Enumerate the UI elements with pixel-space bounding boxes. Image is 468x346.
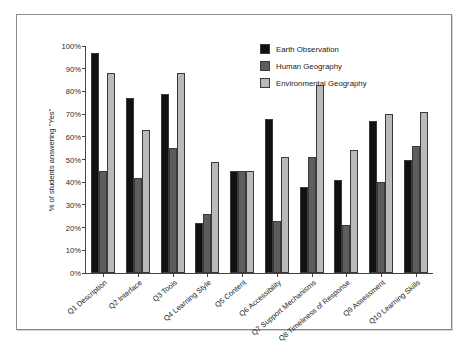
y-axis-tick-label: 50% bbox=[66, 155, 81, 164]
y-axis-tick-mark bbox=[82, 273, 85, 274]
bar-group-bars bbox=[404, 46, 428, 273]
bar-environmental-geography bbox=[246, 171, 254, 273]
y-axis-tick-label: 80% bbox=[66, 87, 81, 96]
y-axis-tick-mark bbox=[82, 250, 85, 251]
x-axis-tick-mark bbox=[138, 273, 139, 277]
bar-human-geography bbox=[134, 178, 142, 273]
y-axis-tick-mark bbox=[82, 182, 85, 183]
bar-human-geography bbox=[238, 171, 246, 273]
x-axis-tick-mark bbox=[103, 273, 104, 277]
y-axis-title: % of students answering "Yes" bbox=[47, 46, 59, 274]
x-axis-tick-label: Q1 Description bbox=[66, 278, 109, 316]
y-axis-tick-label: 70% bbox=[66, 110, 81, 119]
y-axis-tick-mark bbox=[82, 114, 85, 115]
bar-group-bars bbox=[300, 46, 324, 273]
bar-environmental-geography bbox=[281, 157, 289, 273]
x-axis-tick-mark bbox=[312, 273, 313, 277]
y-axis-tick-mark bbox=[82, 136, 85, 137]
bar-earth-observation bbox=[369, 121, 377, 273]
bar-earth-observation bbox=[300, 187, 308, 273]
bar-earth-observation bbox=[404, 160, 412, 274]
bar-group-bars bbox=[334, 46, 358, 273]
bar-earth-observation bbox=[265, 119, 273, 273]
x-axis-tick-mark bbox=[416, 273, 417, 277]
x-axis-tick-label: Q3 Tools bbox=[151, 278, 179, 304]
bar-group: Q7 Support Mechanisms bbox=[294, 46, 329, 273]
y-axis-tick-mark bbox=[82, 46, 85, 47]
bar-environmental-geography bbox=[142, 130, 150, 273]
y-axis-tick-mark bbox=[82, 204, 85, 205]
bar-group-bars bbox=[230, 46, 254, 273]
bar-group: Q8 Timeliness of Response bbox=[329, 46, 364, 273]
bar-group-bars bbox=[369, 46, 393, 273]
bar-environmental-geography bbox=[385, 114, 393, 273]
bar-group: Q5 Content bbox=[225, 46, 260, 273]
x-axis-tick-mark bbox=[242, 273, 243, 277]
bar-environmental-geography bbox=[177, 73, 185, 273]
bar-earth-observation bbox=[195, 223, 203, 273]
bar-earth-observation bbox=[161, 94, 169, 273]
bar-earth-observation bbox=[334, 180, 342, 273]
bar-environmental-geography bbox=[316, 85, 324, 273]
bar-group: Q3 Tools bbox=[155, 46, 190, 273]
bar-human-geography bbox=[342, 225, 350, 273]
x-axis-tick-label: Q7 Support Mechanisms bbox=[249, 278, 317, 337]
bar-group-bars bbox=[161, 46, 185, 273]
x-axis-tick-label: Q5 Content bbox=[213, 278, 248, 309]
bar-earth-observation bbox=[230, 171, 238, 273]
bar-environmental-geography bbox=[107, 73, 115, 273]
x-axis-tick-mark bbox=[346, 273, 347, 277]
y-axis-tick-mark bbox=[82, 159, 85, 160]
bar-group: Q9 Assessment bbox=[364, 46, 399, 273]
bar-group: Q4 Learning Style bbox=[190, 46, 225, 273]
y-axis-tick-label: 100% bbox=[62, 42, 81, 51]
y-axis-tick-label: 20% bbox=[66, 223, 81, 232]
y-axis-tick-label: 0% bbox=[70, 269, 81, 278]
bar-earth-observation bbox=[126, 98, 134, 273]
y-axis-tick-label: 40% bbox=[66, 178, 81, 187]
page-top-smudge-text bbox=[30, 0, 440, 11]
plot-area: 100%90%80%70%60%50%40%30%20%10%0% Q1 Des… bbox=[85, 46, 433, 274]
bar-human-geography bbox=[308, 157, 316, 273]
y-axis-tick-label: 60% bbox=[66, 132, 81, 141]
bar-human-geography bbox=[377, 182, 385, 273]
bar-environmental-geography bbox=[420, 112, 428, 273]
x-axis-tick-mark bbox=[173, 273, 174, 277]
bar-human-geography bbox=[273, 221, 281, 273]
bar-human-geography bbox=[412, 146, 420, 273]
bar-group: Q1 Description bbox=[86, 46, 121, 273]
bar-group-bars bbox=[265, 46, 289, 273]
x-axis-tick-mark bbox=[277, 273, 278, 277]
bar-environmental-geography bbox=[211, 162, 219, 273]
y-axis-tick-mark bbox=[82, 227, 85, 228]
screenshot-page: % of students answering "Yes" Earth Obse… bbox=[0, 0, 468, 346]
x-axis-tick-mark bbox=[381, 273, 382, 277]
x-axis-tick-label: Q2 Interface bbox=[107, 278, 144, 311]
bar-group-bars bbox=[91, 46, 115, 273]
bar-human-geography bbox=[169, 148, 177, 273]
bar-environmental-geography bbox=[350, 150, 358, 273]
x-axis-tick-mark bbox=[207, 273, 208, 277]
bar-human-geography bbox=[203, 214, 211, 273]
y-axis-tick-label: 90% bbox=[66, 64, 81, 73]
y-axis-tick-mark bbox=[82, 91, 85, 92]
y-axis-tick-label: 10% bbox=[66, 246, 81, 255]
bar-group: Q2 Interface bbox=[121, 46, 156, 273]
y-axis-tick-mark bbox=[82, 68, 85, 69]
bar-group-bars bbox=[195, 46, 219, 273]
bar-human-geography bbox=[99, 171, 107, 273]
bar-group: Q6 Accessibility bbox=[260, 46, 295, 273]
bar-group-bars bbox=[126, 46, 150, 273]
y-axis-tick-label: 30% bbox=[66, 200, 81, 209]
bar-groups: Q1 DescriptionQ2 InterfaceQ3 ToolsQ4 Lea… bbox=[86, 46, 433, 273]
bar-group: Q10 Learning Skills bbox=[398, 46, 433, 273]
bar-earth-observation bbox=[91, 53, 99, 273]
chart-frame: % of students answering "Yes" Earth Obse… bbox=[16, 14, 452, 330]
